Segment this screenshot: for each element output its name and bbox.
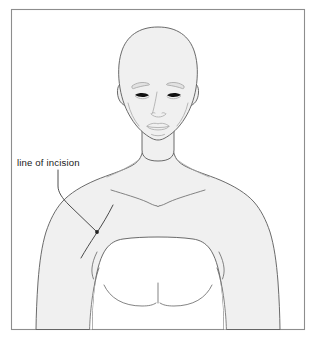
incision-leader-marker xyxy=(95,230,99,234)
illustration-root: line of incision xyxy=(0,0,316,347)
anatomical-figure-svg: line of incision xyxy=(0,0,316,347)
incision-label: line of incision xyxy=(17,157,80,168)
